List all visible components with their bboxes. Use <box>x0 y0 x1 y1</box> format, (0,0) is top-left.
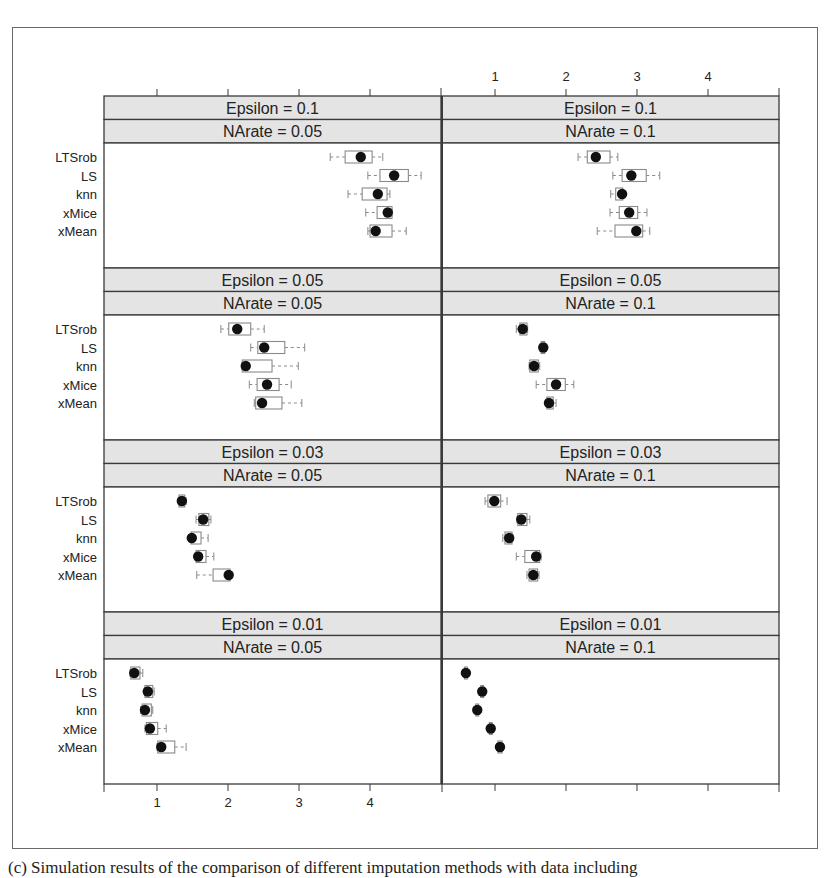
plot-area <box>442 659 779 784</box>
median-dot <box>198 514 208 524</box>
median-dot <box>551 379 561 389</box>
median-dot <box>373 189 383 199</box>
median-dot <box>187 533 197 543</box>
median-dot <box>383 207 393 217</box>
median-dot <box>591 152 601 162</box>
median-dot <box>626 170 636 180</box>
panel-0-1: Epsilon = 0.1NArate = 0.1 <box>442 96 779 268</box>
median-dot <box>140 705 150 715</box>
category-label: xMean <box>58 740 97 755</box>
median-dot <box>257 398 267 408</box>
median-dot <box>528 570 538 580</box>
panel-1-1: Epsilon = 0.05NArate = 0.1 <box>442 268 779 440</box>
category-label: LTSrob <box>55 322 97 337</box>
epsilon-label: Epsilon = 0.03 <box>560 444 662 461</box>
category-label: xMice <box>63 378 97 393</box>
bottom-tick-label: 1 <box>153 795 160 810</box>
category-label: xMean <box>58 568 97 583</box>
figure-caption: (c) Simulation results of the comparison… <box>8 858 832 878</box>
category-label: knn <box>76 359 97 374</box>
top-tick-label: 4 <box>704 69 711 84</box>
median-dot <box>241 361 251 371</box>
top-tick-label: 2 <box>562 69 569 84</box>
category-label: xMice <box>63 550 97 565</box>
panel-3-1: Epsilon = 0.01NArate = 0.1 <box>442 612 779 784</box>
median-dot <box>224 570 234 580</box>
epsilon-label: Epsilon = 0.1 <box>226 100 319 117</box>
category-label: xMice <box>63 722 97 737</box>
boxplot-knn <box>140 704 153 716</box>
narate-label: NArate = 0.05 <box>223 467 322 484</box>
plot-area <box>104 659 441 784</box>
epsilon-label: Epsilon = 0.03 <box>222 444 324 461</box>
median-dot <box>517 324 527 334</box>
category-label: knn <box>76 187 97 202</box>
panel-0-0: Epsilon = 0.1NArate = 0.05 <box>104 96 441 268</box>
bottom-tick-label: 2 <box>224 795 231 810</box>
panel-2-1: Epsilon = 0.03NArate = 0.1 <box>442 440 779 612</box>
category-label: LS <box>81 513 97 528</box>
narate-label: NArate = 0.1 <box>565 467 655 484</box>
panel-2-0: Epsilon = 0.03NArate = 0.05 <box>104 440 441 612</box>
category-label: LS <box>81 341 97 356</box>
bottom-tick-label: 3 <box>295 795 302 810</box>
plot-area <box>104 315 441 440</box>
boxplot-knn <box>529 360 540 372</box>
median-dot <box>177 496 187 506</box>
epsilon-label: Epsilon = 0.01 <box>560 616 662 633</box>
median-dot <box>259 342 269 352</box>
median-dot <box>129 668 139 678</box>
median-dot <box>624 207 634 217</box>
median-dot <box>262 379 272 389</box>
top-tick-label: 1 <box>491 69 498 84</box>
median-dot <box>389 170 399 180</box>
category-labels: LTSrobLSknnxMicexMeanLTSrobLSknnxMicexMe… <box>55 150 97 755</box>
median-dot <box>516 514 526 524</box>
median-dot <box>486 723 496 733</box>
median-dot <box>472 705 482 715</box>
category-label: LTSrob <box>55 666 97 681</box>
narate-label: NArate = 0.1 <box>565 639 655 656</box>
median-dot <box>232 324 242 334</box>
panel-1-0: Epsilon = 0.05NArate = 0.05 <box>104 268 441 440</box>
median-dot <box>489 496 499 506</box>
panel-3-0: Epsilon = 0.01NArate = 0.05 <box>104 612 441 784</box>
median-dot <box>529 361 539 371</box>
median-dot <box>531 551 541 561</box>
category-label: knn <box>76 531 97 546</box>
median-dot <box>370 226 380 236</box>
narate-label: NArate = 0.05 <box>223 123 322 140</box>
category-label: knn <box>76 703 97 718</box>
category-label: LS <box>81 169 97 184</box>
median-dot <box>495 742 505 752</box>
median-dot <box>461 668 471 678</box>
category-label: LS <box>81 685 97 700</box>
category-label: xMice <box>63 206 97 221</box>
narate-label: NArate = 0.1 <box>565 295 655 312</box>
epsilon-label: Epsilon = 0.05 <box>560 272 662 289</box>
median-dot <box>631 226 641 236</box>
plot-area <box>442 315 779 440</box>
median-dot <box>193 551 203 561</box>
median-dot <box>544 398 554 408</box>
median-dot <box>145 723 155 733</box>
category-label: LTSrob <box>55 150 97 165</box>
median-dot <box>538 342 548 352</box>
plot-area <box>104 143 441 268</box>
narate-label: NArate = 0.1 <box>565 123 655 140</box>
plot-area <box>104 487 441 612</box>
median-dot <box>143 686 153 696</box>
category-label: xMean <box>58 396 97 411</box>
epsilon-label: Epsilon = 0.05 <box>222 272 324 289</box>
category-label: LTSrob <box>55 494 97 509</box>
narate-label: NArate = 0.05 <box>223 295 322 312</box>
median-dot <box>356 152 366 162</box>
epsilon-label: Epsilon = 0.01 <box>222 616 324 633</box>
boxplot-xMean <box>527 569 539 581</box>
narate-label: NArate = 0.05 <box>223 639 322 656</box>
median-dot <box>504 533 514 543</box>
median-dot <box>477 686 487 696</box>
bottom-tick-label: 4 <box>366 795 373 810</box>
category-label: xMean <box>58 224 97 239</box>
